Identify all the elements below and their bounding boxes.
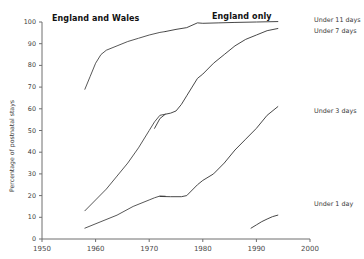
y-axis-title: Percentage of postnatal stays <box>8 100 15 192</box>
chart-container: 0102030405060708090100 19501960197019801… <box>0 0 364 259</box>
x-axis-tick-label: 1950 <box>27 246 57 253</box>
y-axis-tick-label: 90 <box>10 41 36 47</box>
series-line-under-1-day <box>251 215 278 228</box>
series-line-under-11-days <box>165 22 278 32</box>
annotation-england-and-wales: England and Wales <box>52 14 139 23</box>
x-axis-tick-label: 1990 <box>241 246 271 253</box>
series-label-under-3-days: Under 3 days <box>314 107 357 115</box>
chart-plot-area <box>0 0 364 259</box>
x-axis-tick-label: 1960 <box>81 246 111 253</box>
series-line-under-3-days <box>85 196 165 228</box>
y-axis-tick-label: 80 <box>10 62 36 68</box>
x-axis-tick-label: 1970 <box>134 246 164 253</box>
axes <box>39 22 310 242</box>
annotation-england-only: England only <box>212 12 272 21</box>
y-axis-tick-label: 70 <box>10 84 36 90</box>
series-label-under-11-days: Under 11 days <box>314 16 361 24</box>
x-axis-tick-label: 2000 <box>295 246 325 253</box>
y-axis-tick-label: 10 <box>10 214 36 220</box>
series-label-under-1-day: Under 1 day <box>314 200 353 208</box>
series-label-under-7-days: Under 7 days <box>314 27 357 35</box>
x-axis-tick-label: 1980 <box>188 246 218 253</box>
series-line-under-7-days <box>85 114 165 211</box>
y-axis-tick-label: 100 <box>10 19 36 25</box>
series-line-under-11-days <box>85 32 165 90</box>
y-axis-tick-label: 0 <box>10 236 36 242</box>
series-line-under-3-days <box>160 107 278 197</box>
series-lines <box>85 22 278 229</box>
series-line-under-7-days <box>155 29 278 129</box>
y-axis-tick-label: 20 <box>10 193 36 199</box>
